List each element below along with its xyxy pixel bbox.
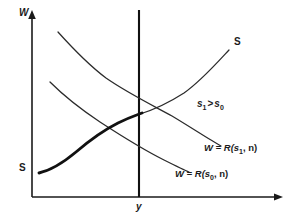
curve-label-r-s0-prefix: W = R(s (175, 168, 210, 179)
x-axis-marker-label: y (136, 202, 142, 212)
curve-r-s0 (50, 82, 189, 172)
economics-diagram: W y S S s1>s0 W = R(s1, n) W = R(s0, n) (0, 0, 300, 219)
supply-curve-upper-label: S (234, 37, 241, 47)
x-axis-arrowhead-icon (274, 193, 283, 200)
curve-label-r-s1-suffix: , n) (243, 142, 257, 153)
y-axis-arrowhead-icon (28, 10, 36, 19)
inequality-annotation: s1>s0 (197, 99, 224, 111)
y-axis-label: W (19, 8, 28, 18)
curve-label-r-s1-prefix: W = R(s (204, 142, 239, 153)
supply-curve-lower-label: S (19, 163, 26, 173)
inequality-sub-lo: 0 (220, 104, 224, 111)
curve-s-bold-segment (39, 113, 142, 173)
figure-canvas (0, 0, 300, 219)
curve-label-r-s1: W = R(s1, n) (204, 143, 257, 155)
curve-label-r-s0: W = R(s0, n) (175, 169, 228, 181)
curve-label-r-s0-suffix: , n) (214, 168, 228, 179)
